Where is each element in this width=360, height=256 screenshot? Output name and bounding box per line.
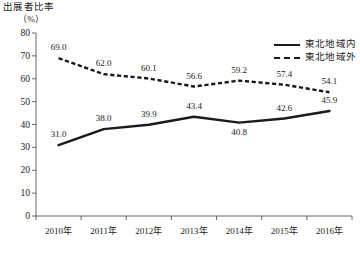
data-point-label: 54.1	[322, 76, 338, 86]
y-axis-tick-label: 70	[8, 51, 30, 61]
y-axis-tick-label: 40	[8, 120, 30, 130]
x-axis-tick-label: 2016年	[316, 224, 343, 237]
data-point-label: 38.0	[96, 113, 112, 123]
data-point-label: 43.4	[186, 101, 202, 111]
x-axis-tick-label: 2014年	[226, 224, 253, 237]
x-axis-tick-label: 2015年	[271, 224, 298, 237]
y-axis-tick-label: 0	[8, 211, 30, 221]
y-axis-tick-label: 30	[8, 142, 30, 152]
data-point-label: 31.0	[51, 129, 67, 139]
data-point-label: 60.1	[141, 63, 157, 73]
y-axis-tick-label: 80	[8, 28, 30, 38]
data-point-label: 62.0	[96, 58, 112, 68]
y-axis-tick-label: 20	[8, 165, 30, 175]
x-axis-tick-label: 2013年	[181, 224, 208, 237]
data-point-label: 69.0	[51, 42, 67, 52]
y-axis-tick-label: 50	[8, 97, 30, 107]
y-axis-tick-label: 10	[8, 188, 30, 198]
data-point-label: 40.8	[231, 127, 247, 137]
data-point-label: 57.4	[276, 69, 292, 79]
line-chart: 出展者比率 （%） 東北地域内 東北地域外 01020304050607080 …	[0, 0, 360, 256]
data-point-label: 59.2	[231, 65, 247, 75]
y-axis-tick-label: 60	[8, 74, 30, 84]
data-point-label: 39.9	[141, 109, 157, 119]
data-point-label: 42.6	[276, 103, 292, 113]
x-axis-tick-label: 2012年	[135, 224, 162, 237]
x-axis-tick-label: 2011年	[90, 224, 117, 237]
plot-area	[0, 0, 360, 256]
data-point-label: 45.9	[322, 95, 338, 105]
x-axis-tick-label: 2010年	[45, 224, 72, 237]
data-point-label: 56.6	[186, 71, 202, 81]
